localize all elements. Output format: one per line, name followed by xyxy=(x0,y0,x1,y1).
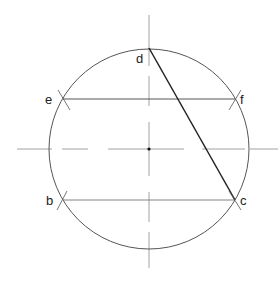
label-e: e xyxy=(45,92,52,107)
label-f: f xyxy=(240,92,244,107)
arc-mark-e xyxy=(58,90,70,110)
center-point xyxy=(147,147,150,150)
label-d: d xyxy=(136,51,143,66)
geometry-diagram: d e f b c xyxy=(0,0,278,284)
arc-mark-b xyxy=(57,191,67,210)
label-b: b xyxy=(46,193,53,208)
chord-dc xyxy=(149,48,235,200)
label-c: c xyxy=(240,193,247,208)
